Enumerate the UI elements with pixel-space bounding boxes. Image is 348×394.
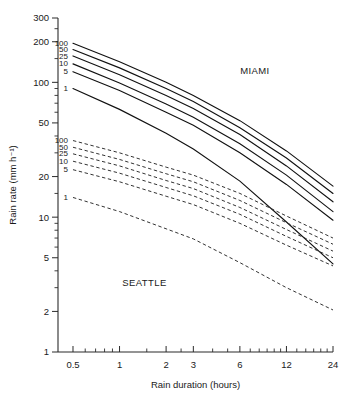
y-tick-label: 10: [38, 212, 49, 223]
y-tick-label: 50: [38, 117, 49, 128]
curve-label-seattle-5: 5: [64, 165, 69, 174]
y-tick-label: 2: [44, 306, 49, 317]
y-axis-label: Rain rate (mm h⁻¹): [7, 145, 18, 224]
y-tick-label: 300: [33, 12, 49, 23]
x-tick-label: 24: [328, 359, 339, 370]
curve-seattle-1: [73, 197, 333, 310]
curve-label-seattle-1: 1: [64, 193, 69, 202]
x-tick-label: 3: [191, 359, 196, 370]
annotation-miami: MIAMI: [240, 65, 269, 76]
x-tick-label: 6: [237, 359, 242, 370]
x-tick-label: 0.5: [66, 359, 79, 370]
y-tick-label: 1: [44, 346, 49, 357]
curve-miami-1: [73, 89, 333, 264]
curve-seattle-10: [73, 161, 333, 258]
curve-seattle-5: [73, 170, 333, 266]
curve-label-miami-1: 1: [64, 84, 69, 93]
y-tick-label: 200: [33, 36, 49, 47]
annotation-seattle: SEATTLE: [122, 277, 166, 288]
x-axis-label: Rain duration (hours): [151, 379, 240, 390]
x-tick-label: 12: [281, 359, 292, 370]
rain-rate-duration-chart: 1251020501002003000.51236122410050251051…: [0, 0, 348, 394]
y-tick-label: 20: [38, 171, 49, 182]
y-tick-label: 5: [44, 252, 49, 263]
x-tick-label: 2: [163, 359, 168, 370]
curve-seattle-50: [73, 147, 333, 244]
curve-seattle-25: [73, 154, 333, 251]
y-tick-label: 100: [33, 77, 49, 88]
chart-svg: 1251020501002003000.51236122410050251051…: [0, 0, 348, 394]
x-tick-label: 1: [117, 359, 122, 370]
curve-miami-5: [73, 72, 333, 221]
curve-miami-25: [73, 56, 333, 202]
curve-miami-10: [73, 64, 333, 212]
curve-label-miami-5: 5: [64, 67, 69, 76]
